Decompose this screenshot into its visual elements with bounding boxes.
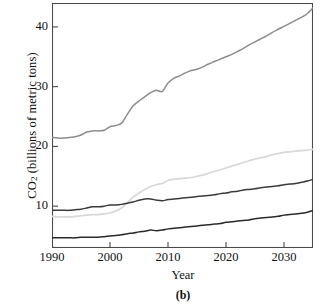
y-tick-label: 10: [22, 199, 48, 212]
y-tick-label: 20: [22, 139, 48, 152]
x-tick-label: 2000: [88, 251, 132, 264]
series-line: [52, 179, 313, 210]
x-tick-label: 1990: [30, 251, 74, 264]
plot-svg: [52, 3, 313, 248]
co2-emissions-figure: CO2 (billions of metric tons) 10203040 1…: [0, 0, 323, 307]
x-axis-title: Year: [52, 268, 314, 283]
x-tick-label: 2020: [204, 251, 248, 264]
y-tick-label: 30: [22, 80, 48, 93]
series-line: [52, 8, 313, 138]
axes-frame: [53, 4, 313, 248]
panel-caption: (b): [52, 288, 314, 303]
y-tick-label: 40: [22, 20, 48, 33]
plot-area: [52, 3, 313, 248]
x-tick-label: 2010: [146, 251, 190, 264]
x-tick-label: 2030: [262, 251, 306, 264]
